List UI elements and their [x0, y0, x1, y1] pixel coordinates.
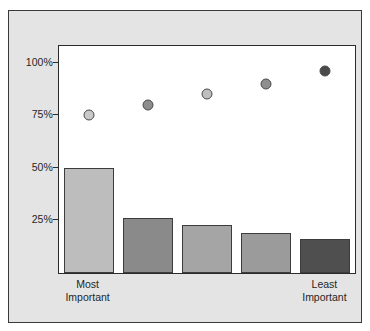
y-axis-tick-marks	[53, 11, 58, 322]
data-point-marker	[261, 78, 272, 89]
x-axis-tick-label-line1: Least	[312, 278, 338, 290]
x-axis-tick-label-line1: Most	[76, 278, 99, 290]
y-axis-tick-mark	[53, 167, 58, 168]
x-axis-tick-label-line2: Important	[302, 291, 346, 303]
data-point-marker	[320, 66, 331, 77]
data-point-marker	[202, 89, 213, 100]
y-axis-tick-label: 100%	[26, 56, 53, 68]
y-axis-tick-label: 75%	[32, 108, 53, 120]
y-axis-tick-label: 50%	[32, 161, 53, 173]
bar	[182, 225, 232, 273]
y-axis-tick-mark	[53, 219, 58, 220]
data-point-marker	[142, 99, 153, 110]
y-axis-tick-label: 25%	[32, 213, 53, 225]
bar	[123, 218, 173, 273]
bar	[64, 168, 114, 273]
chart-figure: 25%50%75%100% MostImportantLeastImportan…	[8, 10, 362, 323]
y-axis-labels: 25%50%75%100%	[9, 11, 53, 322]
x-axis-tick-label: MostImportant	[65, 278, 109, 303]
x-axis-tick-label-line2: Important	[65, 291, 109, 303]
y-axis-tick-mark	[53, 114, 58, 115]
data-point-marker	[83, 110, 94, 121]
bar	[241, 233, 291, 273]
x-axis-tick-label: LeastImportant	[302, 278, 346, 303]
bar	[300, 239, 350, 273]
y-axis-tick-mark	[53, 62, 58, 63]
plot-area	[58, 45, 356, 274]
